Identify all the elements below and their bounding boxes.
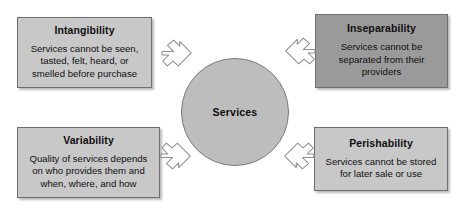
arrow-up-left-icon [282,137,316,171]
characteristic-box-perishability: Perishability Services cannot be stored … [314,127,448,191]
box-body-intangibility: Services cannot be seen, tasted, felt, h… [31,43,139,80]
center-circle-services: Services [181,58,289,166]
arrow-up-right-icon [159,137,193,171]
box-title-variability: Variability [63,134,114,146]
characteristic-box-inseparability: Inseparability Services cannot be separa… [315,14,448,88]
arrow-down-left-icon [283,36,317,70]
box-title-intangibility: Intangibility [54,24,114,36]
box-body-perishability: Services cannot be stored for later sale… [326,156,437,181]
box-body-variability: Quality of services depends on who provi… [30,153,148,190]
box-title-inseparability: Inseparability [347,22,416,34]
box-title-perishability: Perishability [349,137,413,149]
arrow-down-right-icon [160,38,194,72]
characteristic-box-intangibility: Intangibility Services cannot be seen, t… [17,17,152,88]
characteristic-box-variability: Variability Quality of services depends … [17,127,160,198]
services-characteristics-diagram: Intangibility Services cannot be seen, t… [0,0,464,215]
box-body-inseparability: Services cannot be separated from their … [339,41,425,78]
center-circle-label: Services [213,106,258,118]
